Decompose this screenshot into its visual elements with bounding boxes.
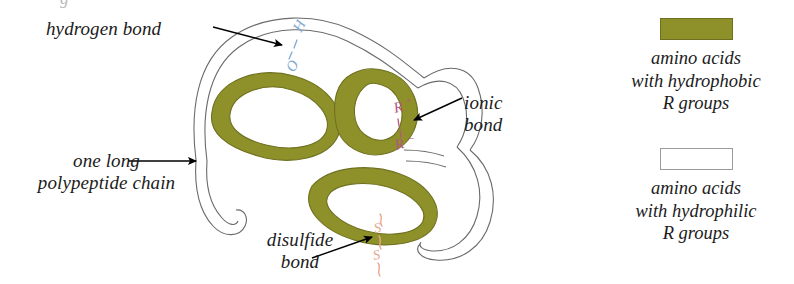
hydrophobic-loop-upper-right [335,69,418,155]
hydrogen-bond-label: hydrogen bond [46,18,161,40]
legend-swatch-hydrophilic [660,148,733,170]
hydrogen-bond-dotted-line [289,40,297,59]
legend-swatch-hydrophobic [660,18,733,40]
legend: amino acids with hydrophobic R groups am… [598,6,794,278]
hydrogen-bond-notation: H O [283,16,310,74]
sulfur-atom-lower: S [372,247,382,263]
ionic-bond-arrow [414,98,462,120]
hydrogen-atom-label: H [289,16,309,35]
disulfide-lower-linker [378,263,380,276]
polypeptide-chain-label: one long polypeptide chain [14,150,199,194]
oxygen-atom-label: O [283,57,302,74]
disulfide-bond-label: disulfide bond [236,229,364,273]
legend-label-hydrophobic: amino acids with hydrophobic R groups [598,47,794,115]
legend-entry-hydrophobic: amino acids with hydrophobic R groups [598,18,794,115]
hydrogen-bond-arrow [213,27,282,45]
hydrophobic-loops [211,69,437,245]
legend-entry-hydrophilic: amino acids with hydrophilic R groups [598,148,794,245]
ionic-negative-charge: – [407,131,414,143]
ionic-bond-label: ionic bond [464,92,503,136]
hydrophobic-loop-upper-left [211,73,340,160]
legend-label-hydrophilic: amino acids with hydrophilic R groups [598,177,794,245]
ionic-positive-charge: + [406,95,412,106]
protein-tertiary-structure-figure: g [0,0,794,284]
disulfide-upper-linker [380,214,382,226]
